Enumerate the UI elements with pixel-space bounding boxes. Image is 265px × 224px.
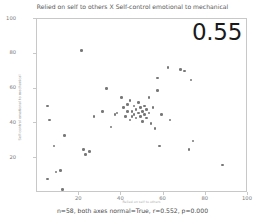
scatter-point: [169, 119, 172, 122]
y-tick-mark: [33, 88, 36, 89]
scatter-point: [93, 115, 96, 118]
scatter-point: [55, 171, 58, 174]
scatter-point: [148, 96, 151, 99]
scatter-point: [141, 120, 144, 123]
scatter-point: [129, 119, 132, 122]
scatter-point: [143, 113, 146, 116]
scatter-point: [156, 77, 159, 80]
scatter-point: [137, 101, 140, 104]
scatter-point: [179, 68, 182, 71]
scatter-point: [61, 188, 64, 191]
y-axis-label: Self-control emotional to mechanical: [18, 28, 23, 188]
scatter-point: [167, 66, 170, 69]
scatter-point: [150, 122, 153, 125]
scatter-point: [190, 79, 193, 82]
x-axis-label: Relied on self to others: [36, 200, 247, 204]
scatter-point: [133, 105, 136, 108]
y-tick-label: 60: [0, 85, 16, 90]
scatter-point: [148, 112, 151, 115]
x-tick-mark: [205, 192, 206, 195]
scatter-point: [101, 110, 104, 113]
x-tick-mark: [120, 192, 121, 195]
scatter-plot-figure: Relied on self to others X Self-control …: [0, 0, 265, 224]
scatter-point: [82, 148, 85, 151]
scatter-point: [46, 178, 49, 181]
y-tick-mark: [33, 122, 36, 123]
scatter-point: [188, 148, 191, 151]
scatter-point: [152, 106, 155, 109]
scatter-point: [143, 105, 146, 108]
y-tick-label: 40: [0, 120, 16, 125]
y-tick-label: 20: [0, 155, 16, 160]
scatter-point: [156, 89, 159, 92]
scatter-point: [46, 105, 49, 108]
scatter-point: [126, 110, 129, 113]
x-tick-mark: [78, 192, 79, 195]
scatter-point: [160, 113, 163, 116]
plot-area: 0.55: [36, 18, 247, 192]
scatter-point: [120, 96, 123, 99]
scatter-point: [88, 150, 91, 153]
stats-caption: n=58, both axes normal=True, r=0.552, p=…: [0, 207, 265, 215]
scatter-point: [154, 127, 157, 130]
scatter-point: [145, 117, 148, 120]
scatter-point: [139, 115, 142, 118]
y-tick-label: 100: [0, 16, 16, 21]
scatter-point: [84, 153, 87, 156]
page-title: Relied on self to others X Self-control …: [0, 3, 265, 11]
scatter-point: [129, 99, 132, 102]
scatter-point: [110, 126, 113, 129]
scatter-point: [141, 110, 144, 113]
scatter-point: [48, 119, 51, 122]
scatter-point: [126, 103, 129, 106]
scatter-point: [135, 117, 138, 120]
scatter-point: [122, 106, 125, 109]
scatter-point: [53, 145, 56, 148]
scatter-point: [137, 112, 140, 115]
scatter-point: [145, 108, 148, 111]
scatter-point: [135, 108, 138, 111]
scatter-point: [139, 106, 142, 109]
scatter-point: [131, 110, 134, 113]
scatter-point: [158, 145, 161, 148]
scatter-point: [63, 134, 66, 137]
scatter-point: [183, 70, 186, 73]
scatter-point: [105, 87, 108, 90]
x-tick-mark: [247, 192, 248, 195]
scatter-point: [133, 113, 136, 116]
scatter-point: [192, 140, 195, 143]
y-tick-mark: [33, 157, 36, 158]
scatter-point: [124, 115, 127, 118]
y-tick-mark: [33, 18, 36, 19]
x-tick-mark: [163, 192, 164, 195]
scatter-point: [59, 169, 62, 172]
y-tick-label: 80: [0, 50, 16, 55]
scatter-point: [221, 164, 224, 167]
y-tick-mark: [33, 53, 36, 54]
scatter-point: [80, 49, 83, 52]
scatter-point: [116, 112, 119, 115]
correlation-annotation: 0.55: [192, 19, 242, 45]
